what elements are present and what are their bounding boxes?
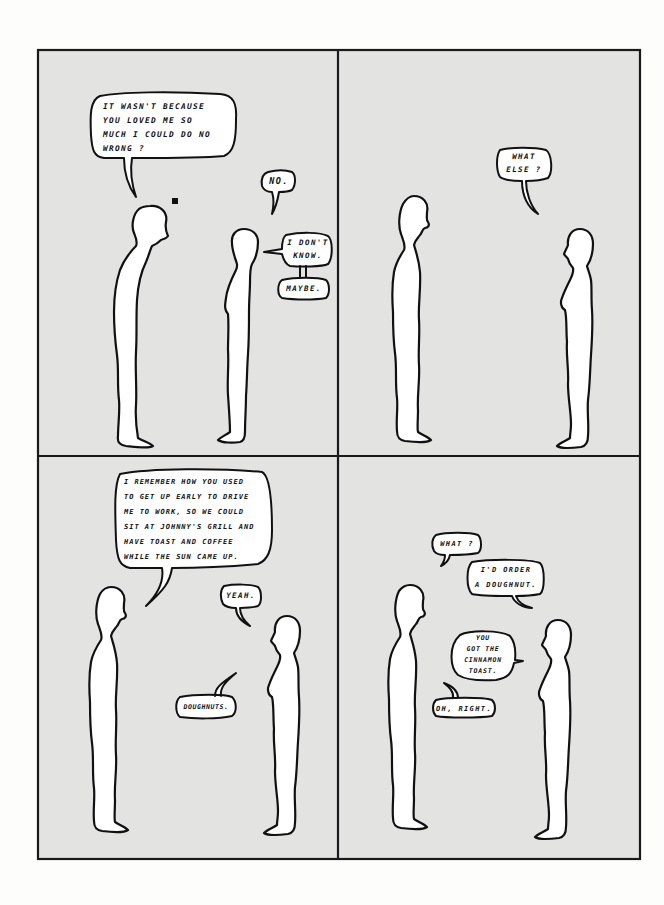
ink-blot	[172, 198, 178, 204]
panel-2-text-what-else: WHAT ELSE ?	[498, 150, 550, 176]
panel-1-bubble-connector	[300, 266, 306, 278]
panel-4-woman-figure	[535, 620, 571, 839]
panel-1-woman-figure	[218, 229, 266, 445]
comic-page: IT WASN'T BECAUSE YOU LOVED ME SO MUCH I…	[0, 0, 664, 905]
panel-3-text-remember: I REMEMBER HOW YOU USED TO GET UP EARLY …	[124, 475, 274, 565]
panel-2-man-figure	[392, 196, 431, 442]
panel-1-text-dont-know: I DON'T KNOW.	[284, 236, 332, 262]
panel-4-man-figure	[388, 585, 427, 829]
panel-1-text-no: NO.	[262, 174, 296, 188]
panel-1-man-figure	[114, 206, 168, 448]
panel-4-text-what: WHAT ?	[432, 537, 482, 551]
comic-artwork	[0, 0, 664, 905]
panel-4-text-order-doughnut: I'D ORDER A DOUGHNUT.	[468, 563, 544, 593]
panel-3-text-doughnuts: DOUGHNUTS.	[176, 700, 236, 714]
panel-2-woman-figure	[557, 229, 604, 448]
panel-3-woman-figure	[264, 616, 300, 835]
panel-3-man-figure	[89, 587, 128, 832]
panel-1-text-question: IT WASN'T BECAUSE YOU LOVED ME SO MUCH I…	[103, 100, 235, 156]
panel-1-text-maybe: MAYBE.	[278, 282, 330, 296]
panel-3-text-yeah: YEAH.	[221, 589, 261, 603]
panel-4-text-cinnamon-toast: YOU GOT THE CINNAMON TOAST.	[452, 633, 514, 677]
panel-4-text-oh-right: OH, RIGHT.	[432, 702, 496, 716]
